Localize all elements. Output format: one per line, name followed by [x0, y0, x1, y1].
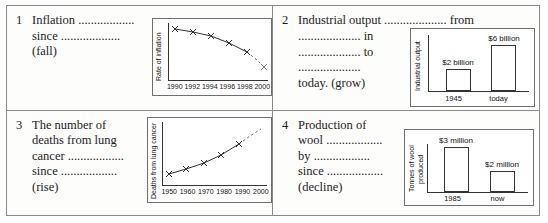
question-line: .................... to	[298, 45, 413, 61]
question-line: .................... in	[298, 29, 413, 45]
bar-value-label: $6 billion	[473, 34, 535, 43]
verb-hint: (fall)	[32, 44, 152, 60]
question-number: 3	[16, 118, 22, 133]
x-axis-ticks: 1950 1960 1970 1980 1990 2000	[160, 188, 270, 195]
question-line: deaths from lung	[32, 133, 152, 149]
question-line: ....................	[298, 60, 413, 76]
question-line: by ..................	[298, 149, 418, 165]
question-line: since ..................	[298, 164, 418, 180]
question-number: 1	[16, 13, 22, 28]
x-tick: 1950	[160, 188, 178, 195]
exercise-item-3: 3 The number of deaths from lung cancer …	[7, 111, 273, 216]
exercise-item-2: 2 Industrial output ....................…	[273, 6, 539, 111]
question-line: since ..................	[32, 164, 152, 180]
question-text: The number of deaths from lung cancer ..…	[32, 118, 152, 196]
exercise-item-4: 4 Production of wool .................. …	[273, 111, 539, 216]
question-number: 2	[282, 13, 288, 28]
verb-hint: today. (grow)	[298, 76, 413, 92]
plot-area: $2 billion $6 billion	[428, 35, 529, 92]
y-axis-label: Tonnes of wool produced	[408, 140, 425, 198]
question-text: .................... in ................…	[298, 29, 413, 91]
x-tick: 1960	[178, 188, 196, 195]
x-tick: 1990	[166, 83, 184, 90]
x-tick: 1985	[427, 194, 478, 203]
chart-panel-2: Industrial output $2 billion $6 billion …	[410, 28, 535, 107]
exercise-sheet: 1 Inflation .................. since ...…	[6, 5, 540, 216]
plot-area	[168, 23, 268, 81]
exercise-item-1: 1 Inflation .................. since ...…	[7, 6, 273, 111]
plot-area: $3 million $2 million	[427, 144, 528, 193]
x-tick: 1998	[236, 83, 254, 90]
question-line: Industrial output .................... f…	[298, 13, 503, 29]
line-series	[163, 122, 267, 185]
question-line: cancer ..................	[32, 149, 152, 165]
y-axis-label: Deaths from lung cancer	[150, 121, 158, 201]
line-series	[169, 23, 268, 80]
x-tick: now	[472, 194, 523, 203]
x-tick: 1970	[197, 188, 215, 195]
chart-panel-3: Deaths from lung cancer 1950 1960	[147, 117, 272, 203]
plot-area	[162, 122, 267, 186]
verb-hint: (decline)	[298, 180, 418, 196]
question-number: 4	[282, 118, 288, 133]
x-tick: 2000	[252, 188, 270, 195]
bar-now	[490, 171, 515, 192]
bar-value-label: $3 million	[425, 136, 487, 145]
bar-value-label: $2 million	[471, 160, 533, 169]
y-axis-label: Industrial output	[414, 35, 422, 97]
chart-panel-1: Rate of inflation	[152, 18, 272, 96]
x-tick: 2000	[254, 83, 272, 90]
x-tick: 1994	[201, 83, 219, 90]
question-line: The number of	[32, 118, 152, 134]
question-text: Inflation .................. since .....…	[32, 13, 152, 60]
x-tick: 1945	[428, 94, 479, 103]
x-tick: 1992	[184, 83, 202, 90]
bar-1945	[446, 69, 471, 91]
question-line: Production of	[298, 118, 418, 134]
question-line: wool ..................	[298, 133, 418, 149]
x-tick: 1996	[219, 83, 237, 90]
question-line: since ...................	[32, 29, 152, 45]
question-line: Inflation ..................	[32, 13, 152, 29]
x-tick: 1990	[233, 188, 251, 195]
x-tick: today	[473, 94, 524, 103]
y-axis-label: Rate of inflation	[155, 23, 163, 91]
x-axis-ticks: 1990 1992 1994 1996 1998 2000	[166, 83, 271, 90]
x-tick: 1980	[215, 188, 233, 195]
verb-hint: (rise)	[32, 180, 152, 196]
chart-panel-4: Tonnes of wool produced $3 million $2 mi…	[404, 129, 534, 206]
bar-value-label: $2 billion	[427, 58, 489, 67]
question-text: Production of wool .................. by…	[298, 118, 418, 196]
bar-1985	[444, 147, 469, 192]
bar-today	[491, 45, 516, 91]
